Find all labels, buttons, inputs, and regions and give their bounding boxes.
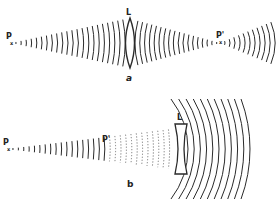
wavefront-arc (241, 99, 250, 199)
wavefront-arc (142, 133, 143, 166)
wavefront-arc (197, 37, 198, 49)
wavefront-arc (83, 140, 84, 158)
diagram-b-caption: b (127, 180, 133, 189)
wavefront-arc (163, 130, 164, 168)
diagram-a-source-marker: x (10, 41, 13, 46)
wavefront-arc (77, 141, 78, 158)
wavefront-arc (262, 26, 265, 60)
wavefront-arc (135, 21, 138, 65)
wavefront-arc (77, 29, 78, 57)
wavefront-arc (82, 28, 84, 58)
wavefront-arc (252, 30, 255, 57)
wavefront-arc (62, 32, 63, 53)
wavefront-arc (188, 35, 189, 52)
wavefront-arc (168, 129, 169, 168)
wavefront-arc (173, 31, 175, 55)
wavefront-arc (229, 39, 230, 47)
wavefront-arc (118, 21, 120, 66)
wavefront-arc (178, 32, 179, 54)
wavefront-arc (239, 35, 241, 50)
wavefront-arc (257, 28, 260, 58)
wavefront-arc (113, 22, 115, 65)
convex-lens (126, 18, 135, 68)
wavefront-arc (202, 38, 203, 47)
wavefront-arc (243, 34, 245, 53)
diagram-b-image-label: P' (102, 136, 110, 144)
wavefront-arc (115, 136, 116, 162)
wavefront-arc (67, 31, 68, 54)
wavefront-arc (140, 22, 143, 64)
wavefront-arc (158, 131, 159, 167)
wavefront-arc (266, 24, 270, 62)
wavefront-arc (72, 30, 73, 56)
diagram-a-caption: a (126, 74, 132, 83)
wavefront-arc (234, 37, 235, 48)
wavefront-arc (87, 27, 89, 59)
diagram-a-lens-label: L (126, 9, 131, 17)
wavefront-arc (193, 36, 194, 50)
wavefront-arc (271, 22, 275, 64)
wavefront-arc (88, 139, 89, 159)
wavefront-arc (41, 37, 42, 50)
wavefront-arc (145, 23, 148, 62)
wavefront-arc (126, 135, 127, 164)
wavefront-arc (92, 26, 94, 60)
wavefront-arc (102, 24, 104, 62)
wavefront-arc (221, 99, 231, 199)
wavefront-arc (234, 99, 243, 199)
diagram-a-convex-lens (16, 18, 275, 68)
wavefront-arc (131, 134, 132, 164)
wavefront-arc (154, 26, 156, 60)
wavefront-arc (248, 32, 250, 55)
wavefront-arc (136, 133, 137, 164)
wavefront-arc (147, 132, 148, 166)
wavefront-arc (164, 28, 166, 57)
concave-lens (175, 124, 187, 174)
wavefront-arc (120, 135, 121, 162)
wavefront-arc (46, 36, 47, 51)
wavefront-arc (152, 131, 153, 166)
wavefront-arc (99, 138, 100, 160)
diagram-a-image-marker: x (219, 40, 222, 45)
wavefront-arc (169, 30, 171, 57)
wavefront-arc (159, 27, 161, 59)
wavefront-arc (57, 33, 58, 52)
wavefront-arc (108, 23, 110, 63)
wavefront-arc (149, 25, 151, 62)
wavefront-arc (52, 35, 53, 52)
wavefront-arc (214, 99, 225, 199)
wavefront-arc (97, 25, 99, 61)
wavefront-arc (183, 33, 184, 52)
wavefront-arc (36, 38, 37, 49)
optics-wavefront-figure (0, 0, 279, 201)
diagram-b-lens-label: L (177, 114, 182, 122)
wavefront-arc (93, 139, 94, 160)
wavefront-arc (228, 99, 238, 199)
diagram-b-source-marker: x (7, 147, 10, 152)
